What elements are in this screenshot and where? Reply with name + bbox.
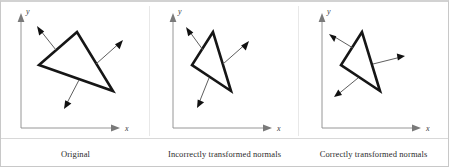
y-axis-label: y [177, 7, 182, 16]
normal-upper-right [223, 41, 249, 64]
caption-cell-incorrect: Incorrectly transformed normals [150, 139, 299, 167]
caption-incorrect: Incorrectly transformed normals [168, 149, 281, 159]
panel-row: y x [1, 2, 448, 138]
x-axis-label: x [124, 124, 129, 133]
normal-upper-right [373, 54, 405, 64]
diagram-correct: y x [299, 2, 448, 138]
axes-original: y x [18, 7, 129, 133]
diagram-incorrect: y x [150, 2, 299, 138]
axis-lines [173, 20, 265, 128]
x-axis-arrowhead [263, 125, 272, 132]
normal-upper-left [37, 26, 56, 50]
normal-lower [197, 78, 209, 108]
figure-container: y x [0, 0, 449, 167]
triangle-shape [39, 32, 113, 91]
normal-upper-right [96, 40, 123, 64]
x-axis-label: x [276, 124, 281, 133]
caption-original: Original [61, 149, 90, 159]
y-axis-arrowhead [18, 13, 25, 22]
x-axis-arrowhead [111, 125, 120, 132]
caption-correct: Correctly transformed normals [320, 149, 428, 159]
arrowhead [397, 54, 405, 61]
arrowhead [197, 100, 204, 109]
y-axis-arrowhead [319, 13, 326, 22]
caption-cell-original: Original [1, 139, 150, 167]
y-axis-label: y [326, 7, 331, 16]
normal-upper-left [186, 27, 203, 50]
normal-lower [334, 78, 358, 97]
arrowhead [64, 100, 71, 109]
triangle-shape [341, 32, 380, 91]
panel-original: y x [1, 2, 150, 138]
diagram-original: y x [1, 2, 150, 138]
arrowhead [115, 40, 123, 49]
x-axis-label: x [425, 124, 430, 133]
arrowhead [334, 89, 342, 97]
arrowhead [241, 41, 249, 50]
caption-cell-correct: Correctly transformed normals [299, 139, 448, 167]
y-axis-arrowhead [170, 13, 177, 22]
normal-lower [64, 80, 79, 109]
x-axis-arrowhead [412, 125, 421, 132]
panel-incorrect: y x [150, 2, 299, 138]
normal-upper-left [329, 34, 353, 48]
caption-row: Original Incorrectly transformed normals… [1, 138, 448, 167]
panel-correct: y x [299, 2, 448, 138]
y-axis-label: y [25, 7, 30, 16]
arrowhead [329, 34, 336, 42]
